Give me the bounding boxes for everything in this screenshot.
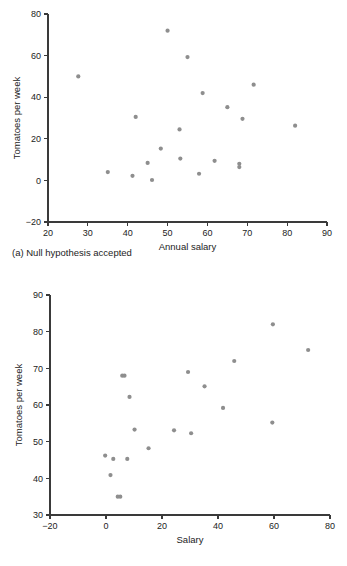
data-point — [213, 159, 217, 163]
data-point — [252, 83, 256, 87]
data-point — [134, 115, 138, 119]
data-point — [271, 322, 275, 326]
x-tick-label: −20 — [42, 521, 57, 531]
data-point — [240, 117, 244, 121]
y-tick-label: 60 — [33, 400, 43, 410]
data-point — [232, 359, 236, 363]
data-point — [132, 427, 136, 431]
x-tick-label: 30 — [83, 228, 93, 238]
y-tick-label: 80 — [33, 327, 43, 337]
data-point — [237, 165, 241, 169]
data-point — [293, 124, 297, 128]
data-point — [159, 146, 163, 150]
x-tick-label: 70 — [242, 228, 252, 238]
data-point — [185, 55, 189, 59]
data-point — [146, 446, 150, 450]
data-point — [125, 457, 129, 461]
x-tick-label: 80 — [282, 228, 292, 238]
data-point — [306, 348, 310, 352]
y-tick-label: 20 — [31, 134, 41, 144]
figure-a: −200204060802030405060708090Annual salar… — [0, 0, 347, 283]
data-point — [103, 454, 107, 458]
figure-a-caption: (a) Null hypothesis accepted — [12, 247, 132, 258]
x-tick-label: 90 — [322, 228, 332, 238]
y-tick-label: −20 — [26, 217, 41, 227]
y-tick-label: 30 — [33, 510, 43, 520]
y-tick-label: 40 — [33, 474, 43, 484]
data-point — [165, 29, 169, 33]
data-point — [150, 178, 154, 182]
x-tick-label: 0 — [103, 521, 108, 531]
x-axis-title: Salary — [177, 534, 204, 545]
data-point — [146, 161, 150, 165]
x-tick-label: 20 — [43, 228, 53, 238]
data-point — [122, 374, 126, 378]
data-point — [111, 457, 115, 461]
y-axis-title: Tomatoes per week — [11, 77, 22, 160]
data-point — [186, 370, 190, 374]
y-tick-label: 40 — [31, 92, 41, 102]
data-point — [118, 495, 122, 499]
data-point — [189, 431, 193, 435]
y-tick-label: 50 — [33, 437, 43, 447]
y-tick-label: 0 — [36, 176, 41, 186]
data-point — [225, 105, 229, 109]
x-tick-label: 60 — [269, 521, 279, 531]
data-point — [127, 395, 131, 399]
data-point — [177, 127, 181, 131]
x-tick-label: 40 — [213, 521, 223, 531]
data-point — [130, 174, 134, 178]
x-tick-label: 40 — [123, 228, 133, 238]
data-point — [197, 172, 201, 176]
data-point — [172, 428, 176, 432]
y-tick-label: 80 — [31, 9, 41, 19]
data-point — [201, 91, 205, 95]
x-axis-title: Annual salary — [159, 241, 217, 252]
data-point — [76, 74, 80, 78]
y-axis-title: Tomatoes per week — [13, 364, 24, 447]
y-tick-label: 70 — [33, 364, 43, 374]
data-point — [178, 156, 182, 160]
y-tick-label: 90 — [33, 290, 43, 300]
scatter-plot-b: 30405060708090−20020406080SalaryTomatoes… — [0, 283, 347, 566]
data-point — [108, 473, 112, 477]
scatter-plot-a: −200204060802030405060708090Annual salar… — [0, 0, 347, 283]
x-tick-label: 20 — [157, 521, 167, 531]
y-tick-label: 60 — [31, 51, 41, 61]
data-point — [106, 170, 110, 174]
data-point — [202, 384, 206, 388]
data-point — [270, 421, 274, 425]
x-tick-label: 80 — [325, 521, 335, 531]
data-point — [221, 406, 225, 410]
x-tick-label: 60 — [202, 228, 212, 238]
x-tick-label: 50 — [163, 228, 173, 238]
figure-b: 30405060708090−20020406080SalaryTomatoes… — [0, 283, 347, 566]
